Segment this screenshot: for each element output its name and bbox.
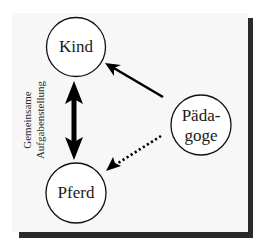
node-pferd-label: Pferd (46, 183, 106, 202)
node-paedagoge-label: Päda- goge (171, 106, 231, 146)
edge-label-gemeinsame-aufgabenstellung: Gemeinsame Aufgabenstellung (21, 60, 51, 180)
solid-arrow-icon (105, 63, 163, 97)
double-arrow-icon (65, 81, 83, 160)
dotted-arrow-icon (106, 136, 161, 171)
diagram-figure: Kind Päda- goge Pferd Gemeinsame Aufgabe… (0, 0, 267, 249)
node-kind-label: Kind (46, 37, 106, 56)
